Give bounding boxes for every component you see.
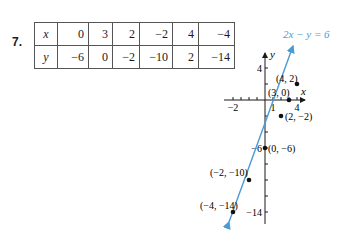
point-label: (−4, −14) [200, 200, 238, 212]
point-label: (3, 0) [268, 87, 290, 99]
point-dot [263, 146, 268, 151]
x-tick-label: −2 [228, 102, 239, 113]
point-dot [287, 98, 292, 103]
point-label: (0, −6) [268, 143, 295, 155]
x-axis-label: x [300, 85, 306, 97]
y-tick-label: −14 [246, 207, 262, 218]
y-axis-label: y [269, 48, 275, 60]
y-tick-label: 4 [257, 63, 262, 74]
point-label: (2, −2) [285, 111, 312, 123]
point-dot [247, 178, 252, 183]
equation-label: 2x − y = 6 [283, 28, 330, 40]
coordinate-graph: x y −2 1 4 4 −6 −14 2x − y = 6 (4, 2) (3… [0, 0, 339, 233]
y-axis [265, 53, 268, 224]
point-label: (4, 2) [276, 73, 298, 85]
point-label: (−2, −10) [210, 167, 248, 179]
point-dot [279, 114, 284, 119]
